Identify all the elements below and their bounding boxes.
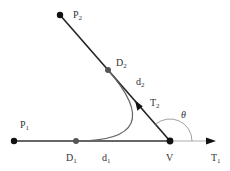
corner-smoothing-diagram: P2 D2 d2 T2 θ P1 D1 d1 V T1 bbox=[0, 0, 230, 171]
point-d1 bbox=[73, 138, 79, 144]
label-t2: T2 bbox=[150, 97, 160, 110]
point-p1 bbox=[11, 138, 17, 144]
label-t1: T1 bbox=[211, 152, 221, 165]
smoothing-curve bbox=[76, 70, 133, 141]
label-p2: P2 bbox=[73, 9, 83, 22]
label-v: V bbox=[166, 152, 174, 163]
label-d2-length: d2 bbox=[136, 76, 145, 89]
label-p1: P1 bbox=[20, 119, 30, 132]
tangent-t1-arrowhead bbox=[206, 138, 216, 145]
label-d1-length: d1 bbox=[102, 152, 111, 165]
point-v bbox=[167, 138, 174, 145]
point-d2 bbox=[105, 67, 111, 73]
label-theta: θ bbox=[181, 109, 186, 120]
label-d2: D2 bbox=[116, 57, 127, 70]
point-p2 bbox=[57, 12, 63, 18]
label-d1: D1 bbox=[66, 152, 77, 165]
